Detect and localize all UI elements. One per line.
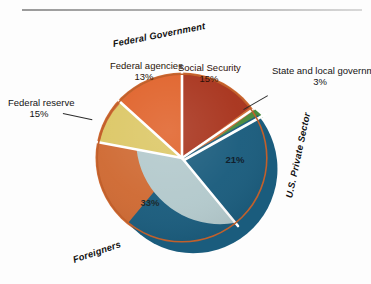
slice-label-state-local-value: 3%	[272, 77, 368, 88]
slice-value-us-private-sector: 21%	[218, 155, 252, 166]
slice-label-federal-reserve-value: 15%	[8, 109, 70, 120]
pie-svg	[0, 0, 371, 284]
slice-label-social-security: Social Security 15%	[178, 63, 240, 85]
slice-label-federal-reserve: Federal reserve 15%	[8, 98, 70, 120]
pie-graphic	[0, 0, 371, 284]
slice-value-foreigners: 33%	[133, 198, 167, 209]
slice-label-federal-agencies: Federal agencies 13%	[110, 61, 178, 83]
slice-label-social-security-value: 15%	[178, 74, 240, 85]
pie-chart-figure: Federal Government U.S. Private Sector F…	[0, 0, 371, 284]
slice-label-state-local: State and local governments 3%	[272, 66, 368, 88]
slice-label-federal-agencies-value: 13%	[110, 72, 178, 83]
